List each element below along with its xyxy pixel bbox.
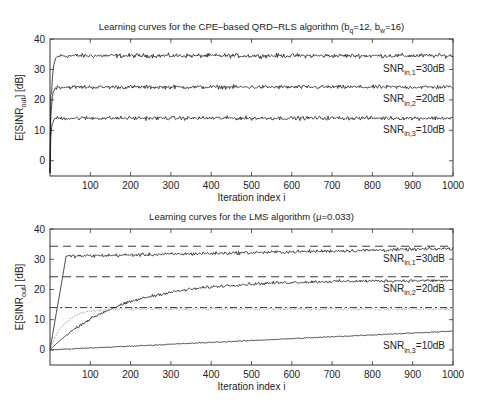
series-label: SNRin,1=30dB [383, 253, 445, 267]
axes-box [50, 39, 453, 176]
y-tick-label: 0 [39, 344, 45, 355]
y-tick-label: 10 [34, 125, 46, 136]
x-tick-label: 800 [364, 180, 381, 191]
y-tick-label: 10 [34, 314, 46, 325]
x-axis-label: Iteration index i [218, 381, 286, 392]
chart-figure: 1002003004005006007008009001000010203040… [0, 0, 485, 409]
x-tick-label: 1000 [442, 180, 465, 191]
x-tick-label: 600 [283, 180, 300, 191]
x-axis-label: Iteration index i [218, 192, 286, 203]
x-tick-label: 600 [283, 369, 300, 380]
chart-title: Learning curves for the CPE–based QRD–RL… [99, 21, 405, 35]
y-axis-label: E[SINRout] [dB] [14, 263, 28, 330]
x-tick-label: 500 [243, 180, 260, 191]
x-tick-label: 700 [324, 180, 341, 191]
x-tick-label: 900 [404, 180, 421, 191]
y-tick-label: 20 [34, 94, 46, 105]
series-label: SNRin,1=30dB [383, 63, 445, 77]
y-tick-label: 40 [34, 224, 46, 235]
x-tick-label: 800 [364, 369, 381, 380]
x-tick-label: 400 [203, 369, 220, 380]
x-tick-label: 700 [324, 369, 341, 380]
x-tick-label: 1000 [442, 369, 465, 380]
x-tick-label: 100 [82, 369, 99, 380]
series-label: SNRin,3=10dB [383, 340, 445, 354]
x-tick-label: 400 [203, 180, 220, 191]
series-label: SNRin,2=20dB [383, 93, 445, 107]
chart-panel-1: 1002003004005006007008009001000010203040… [14, 21, 465, 203]
x-tick-label: 300 [163, 180, 180, 191]
y-tick-label: 40 [34, 34, 46, 45]
chart-title: Learning curves for the LMS algorithm (μ… [149, 211, 354, 222]
y-tick-label: 0 [39, 155, 45, 166]
series-label: SNRin,3=10dB [383, 124, 445, 138]
y-tick-label: 20 [34, 284, 46, 295]
x-tick-label: 900 [404, 369, 421, 380]
x-tick-label: 200 [122, 180, 139, 191]
y-tick-label: 30 [34, 254, 46, 265]
x-tick-label: 300 [163, 369, 180, 380]
series-label: SNRin,2=20dB [383, 283, 445, 297]
figure-svg: 1002003004005006007008009001000010203040… [0, 0, 485, 409]
y-tick-label: 30 [34, 64, 46, 75]
y-axis-label: E[SINRout] [dB] [14, 74, 28, 141]
x-tick-label: 500 [243, 369, 260, 380]
chart-panel-2: 1002003004005006007008009001000010203040… [14, 211, 465, 392]
x-tick-label: 100 [82, 180, 99, 191]
x-tick-label: 200 [122, 369, 139, 380]
